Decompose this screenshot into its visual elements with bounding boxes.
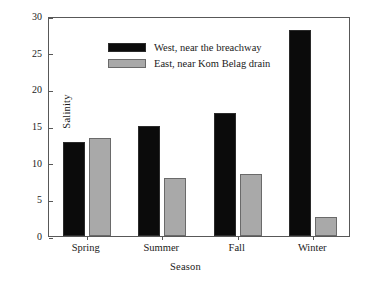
bar	[289, 30, 311, 236]
bar	[89, 138, 111, 236]
legend-item-east: East, near Kom Belag drain	[108, 56, 270, 70]
legend-item-west: West, near the breachway	[108, 40, 270, 54]
y-tick-mark	[49, 201, 53, 202]
y-tick-mark	[49, 128, 53, 129]
x-tick-label: Fall	[197, 242, 277, 253]
x-tick-label: Winter	[272, 242, 352, 253]
y-tick-label: 15	[32, 121, 42, 132]
x-axis-title: Season	[0, 261, 371, 272]
legend-swatch-east	[108, 59, 146, 68]
y-tick-mark	[49, 164, 53, 165]
x-tick-mark	[87, 236, 88, 240]
x-tick-mark	[238, 236, 239, 240]
y-tick-mark	[49, 238, 53, 239]
legend-label-east: East, near Kom Belag drain	[154, 58, 270, 69]
x-tick-label: Spring	[46, 242, 126, 253]
y-tick-label: 30	[32, 11, 42, 22]
legend-swatch-west	[108, 43, 146, 52]
y-tick-label: 5	[37, 194, 42, 205]
y-tick-mark	[49, 54, 53, 55]
salinity-bar-chart: Salinity 051015202530 West, near the bre…	[0, 0, 371, 282]
bar	[63, 142, 85, 236]
y-tick-label: 0	[37, 231, 42, 242]
legend-label-west: West, near the breachway	[154, 42, 262, 53]
y-tick-label: 20	[32, 84, 42, 95]
x-tick-mark	[162, 236, 163, 240]
y-tick-mark	[49, 18, 53, 19]
y-tick-label: 10	[32, 158, 42, 169]
plot-area: Salinity 051015202530 West, near the bre…	[48, 17, 350, 237]
bar	[138, 126, 160, 236]
x-tick-mark	[313, 236, 314, 240]
bar	[164, 178, 186, 236]
bar	[315, 217, 337, 236]
y-tick-mark	[49, 91, 53, 92]
y-tick-label: 25	[32, 48, 42, 59]
bar	[214, 113, 236, 236]
x-tick-label: Summer	[121, 242, 201, 253]
legend: West, near the breachway East, near Kom …	[108, 40, 270, 72]
bar	[240, 174, 262, 236]
